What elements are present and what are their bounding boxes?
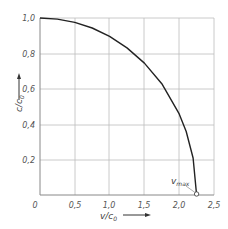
x-axis-label: v/c0 — [100, 211, 117, 222]
grid — [40, 18, 214, 195]
chart: vmax 1,0 0,8 0,6 0,4 0,2 0 0,5 1,0 1,5 2… — [0, 0, 228, 229]
x-axis-arrow-icon — [123, 213, 151, 217]
svg-text:1,5: 1,5 — [138, 201, 151, 210]
svg-text:0,5: 0,5 — [69, 201, 82, 210]
y-tick-labels: 1,0 0,8 0,6 0,4 0,2 — [22, 14, 35, 165]
svg-text:0,8: 0,8 — [22, 50, 35, 59]
x-tick-labels: 0 0,5 1,0 1,5 2,0 2,5 — [32, 201, 220, 210]
svg-text:0,4: 0,4 — [22, 121, 35, 130]
axes — [40, 18, 214, 195]
vmax-point — [194, 192, 198, 196]
svg-text:2,5: 2,5 — [208, 201, 221, 210]
svg-text:2,0: 2,0 — [173, 201, 186, 210]
svg-text:0: 0 — [32, 201, 37, 210]
svg-text:1,0: 1,0 — [22, 14, 35, 23]
svg-text:0,2: 0,2 — [22, 156, 35, 165]
data-curve — [40, 18, 197, 195]
vmax-label: vmax — [171, 176, 190, 187]
svg-text:1,0: 1,0 — [103, 201, 116, 210]
svg-text:0,6: 0,6 — [22, 85, 35, 94]
